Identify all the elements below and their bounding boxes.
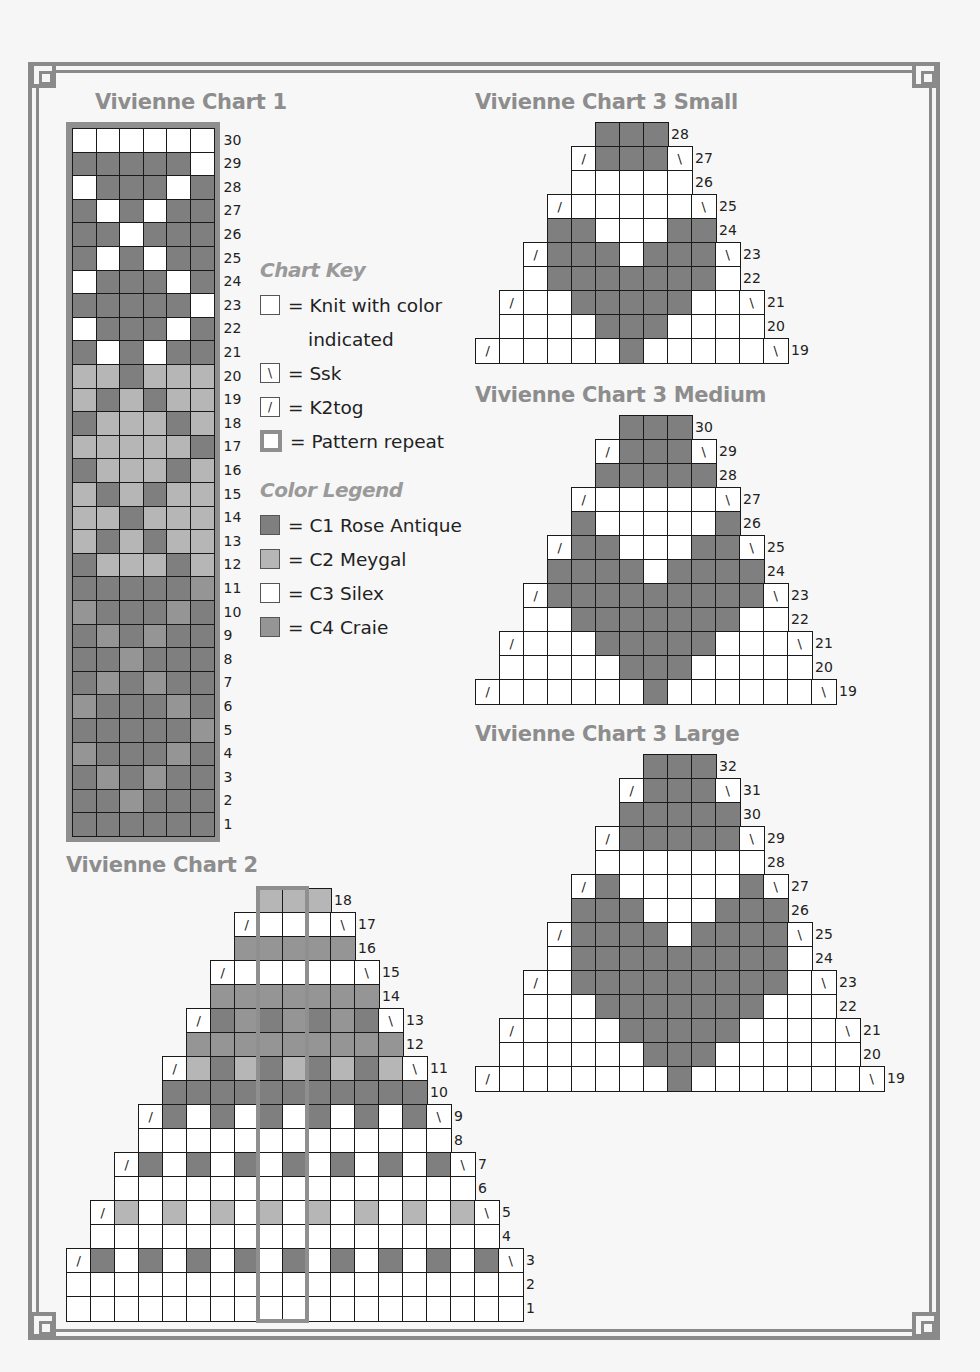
chart-cell	[96, 175, 121, 200]
chart-cell	[474, 1272, 500, 1298]
chart-cell	[667, 511, 693, 537]
chart-cell	[354, 1200, 380, 1226]
chart-cell	[619, 1066, 645, 1092]
k2tog-symbol-icon: /	[523, 242, 549, 268]
chart-cell	[166, 340, 191, 365]
chart-cell	[691, 266, 717, 292]
chart-cell	[330, 1056, 356, 1082]
chart-cell	[619, 922, 645, 948]
chart-cell	[190, 553, 215, 578]
chart-cell	[282, 1104, 308, 1130]
row-number: 18	[334, 892, 352, 908]
chart-cell	[210, 984, 236, 1010]
chart-cell	[667, 607, 693, 633]
row-number: 17	[224, 438, 242, 454]
chart-cell	[119, 600, 144, 625]
chart-cell	[354, 1224, 380, 1250]
chart-cell	[691, 1018, 717, 1044]
chart-cell	[691, 922, 717, 948]
chart-title: Vivienne Chart 3 Medium	[475, 383, 766, 407]
chart-cell	[499, 338, 525, 364]
chart-cell	[691, 535, 717, 561]
row-number: 11	[430, 1060, 448, 1076]
chart-cell	[571, 1066, 597, 1092]
row-number: 4	[224, 745, 233, 761]
chart-cell	[691, 583, 717, 609]
chart-cell	[595, 290, 621, 316]
chart-cell	[96, 671, 121, 696]
chart-cell	[474, 1248, 500, 1274]
row-number: 29	[719, 443, 737, 459]
key-item-k2tog: / = K2tog	[260, 390, 480, 424]
chart-cell	[619, 463, 645, 489]
row-number: 9	[454, 1108, 463, 1124]
row-number: 4	[502, 1228, 511, 1244]
chart-cell	[186, 1200, 212, 1226]
chart-cell	[378, 1080, 404, 1106]
chart-cell	[96, 718, 121, 743]
chart-cell	[643, 607, 669, 633]
chart-cell	[667, 1042, 693, 1068]
chart-cell	[96, 293, 121, 318]
chart-cell	[691, 511, 717, 537]
chart-cell	[667, 583, 693, 609]
chart-cell	[166, 482, 191, 507]
chart-cell	[402, 1272, 428, 1298]
chart-cell	[306, 1032, 332, 1058]
chart-cell	[547, 266, 573, 292]
chart-cell	[258, 1104, 284, 1130]
chart-cell	[498, 1272, 524, 1298]
chart-cell	[190, 624, 215, 649]
chart-cell	[667, 290, 693, 316]
chart-cell	[119, 435, 144, 460]
chart-cell	[166, 222, 191, 247]
chart-cell	[835, 1066, 861, 1092]
chart-cell	[166, 175, 191, 200]
chart-cell	[306, 1080, 332, 1106]
chart-cell	[72, 529, 97, 554]
chart-cell	[426, 1272, 452, 1298]
key-item-knit: = Knit with color	[260, 288, 480, 322]
chart-cell	[715, 679, 741, 705]
chart-cell	[282, 984, 308, 1010]
chart-cell	[166, 765, 191, 790]
chart-cell	[282, 1224, 308, 1250]
chart-cell	[523, 290, 549, 316]
chart-cell	[258, 936, 284, 962]
c3-swatch-icon	[260, 583, 280, 603]
chart-cell	[306, 1272, 332, 1298]
chart-cell	[523, 994, 549, 1020]
row-number: 23	[839, 974, 857, 990]
chart-cell	[787, 1066, 813, 1092]
chart-cell	[96, 222, 121, 247]
chart-cell	[330, 960, 356, 986]
row-number: 30	[743, 806, 761, 822]
chart-cell	[739, 1018, 765, 1044]
chart-cell	[282, 960, 308, 986]
chart-title: Vivienne Chart 2	[66, 853, 258, 877]
chart-cell	[715, 655, 741, 681]
chart-cell	[571, 994, 597, 1020]
row-number: 12	[406, 1036, 424, 1052]
row-number: 8	[224, 651, 233, 667]
chart-cell	[691, 607, 717, 633]
chart-cell	[667, 487, 693, 513]
chart-cell	[306, 1008, 332, 1034]
chart-title: Vivienne Chart 3 Large	[475, 722, 739, 746]
row-number: 30	[695, 419, 713, 435]
chart-cell	[643, 559, 669, 585]
chart-cell	[835, 1042, 861, 1068]
chart-cell	[811, 1018, 837, 1044]
chart-cell	[119, 765, 144, 790]
ssk-symbol-icon: \	[715, 487, 741, 513]
chart-cell	[162, 1296, 188, 1322]
row-number: 19	[791, 342, 809, 358]
chart-cell	[643, 487, 669, 513]
chart-cell	[166, 624, 191, 649]
chart-cell	[143, 742, 168, 767]
chart-cell	[378, 1104, 404, 1130]
chart-cell	[763, 679, 789, 705]
key-item-ssk: \ = Ssk	[260, 356, 480, 390]
chart-cell	[119, 152, 144, 177]
chart-cell	[595, 242, 621, 268]
